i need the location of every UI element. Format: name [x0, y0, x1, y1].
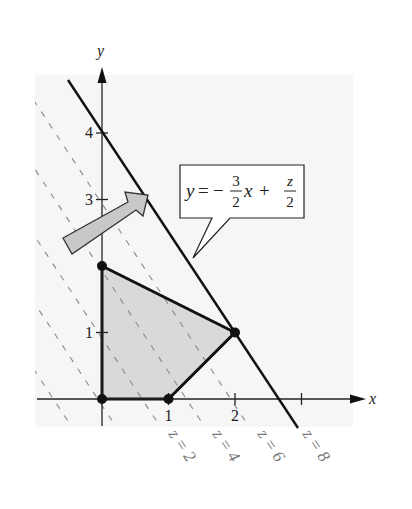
- y-tick-label-1: 1: [85, 324, 93, 341]
- callout-lhs-y: y: [184, 180, 195, 201]
- callout-frac1-den: 2: [232, 194, 240, 210]
- callout-frac1-num: 3: [232, 173, 240, 189]
- label-z-4: z = 4: [208, 425, 244, 466]
- x-tick-label-2: 2: [231, 407, 239, 424]
- label-z-2: z = 2: [164, 425, 200, 466]
- y-tick-label-4: 4: [85, 124, 93, 141]
- label-z-6: z = 6: [253, 425, 289, 466]
- vertex-1-0: [164, 394, 174, 404]
- x-tick-label-1: 1: [165, 407, 173, 424]
- linear-programming-figure: 1 2 1 3 4 x y y = − 3 2 x + z 2 z = 2 z …: [0, 0, 412, 509]
- callout-plus: +: [259, 180, 270, 201]
- x-axis-label: x: [368, 390, 376, 407]
- vertex-0-0: [97, 394, 107, 404]
- callout-equals: =: [198, 180, 209, 201]
- label-z-8: z = 8: [298, 425, 334, 466]
- callout-var-x: x: [243, 180, 253, 201]
- callout-frac2-den: 2: [286, 194, 294, 210]
- vertex-0-2: [97, 261, 107, 271]
- callout-minus: −: [213, 180, 224, 201]
- y-axis-label: y: [95, 42, 105, 60]
- level-line-labels: z = 2 z = 4 z = 6 z = 8: [164, 425, 334, 466]
- vertex-2-1: [230, 328, 240, 338]
- y-tick-label-3: 3: [85, 191, 93, 208]
- callout-frac2-num: z: [286, 173, 293, 189]
- level-line-z-minus-4: [0, 53, 31, 432]
